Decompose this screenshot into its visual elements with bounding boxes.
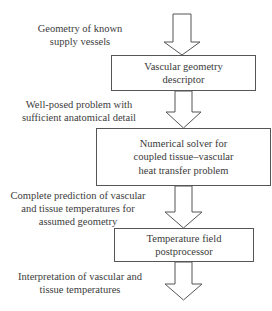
arrow-down-icon: [166, 91, 201, 128]
input-label-interpretation: Interpretation of vascular and tissue te…: [6, 270, 154, 296]
box-numerical-solver: Numerical solver for coupled tissue–vasc…: [96, 128, 271, 186]
input-label-complete-prediction: Complete prediction of vascular and tiss…: [2, 189, 154, 228]
box-vascular-geometry-descriptor: Vascular geometry descriptor: [111, 55, 256, 91]
arrow-down-icon: [165, 262, 202, 300]
box-temperature-field-postprocessor: Temperature field postprocessor: [114, 228, 254, 262]
arrow-down-icon: [165, 186, 202, 228]
arrow-down-icon: [164, 14, 200, 55]
input-label-well-posed: Well-posed problem with sufficient anato…: [14, 98, 144, 124]
input-label-geometry: Geometry of known supply vessels: [30, 22, 130, 48]
